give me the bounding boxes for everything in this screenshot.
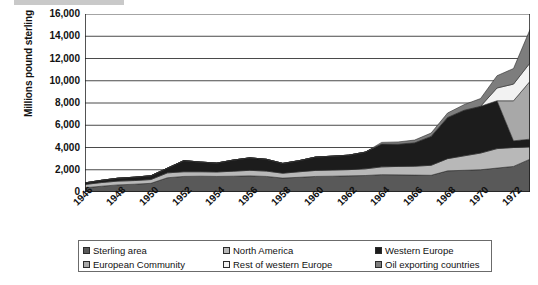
x-tick-label: 1960 xyxy=(302,184,326,208)
legend-swatch xyxy=(375,247,382,254)
stacked-area-chart: Millions pound sterling 02,0004,0006,000… xyxy=(0,0,538,285)
x-tick-label: 1956 xyxy=(236,184,260,208)
legend-label: Oil exporting countries xyxy=(385,259,480,270)
x-tick-label: 1966 xyxy=(401,184,425,208)
legend-label: Rest of western Europe xyxy=(233,259,332,270)
legend-item[interactable]: Rest of western Europe xyxy=(223,259,375,270)
legend: Sterling areaNorth AmericaWestern Europe… xyxy=(78,240,492,272)
legend-item[interactable]: European Community xyxy=(83,259,223,270)
legend-item[interactable]: North America xyxy=(223,245,375,256)
legend-item[interactable]: Oil exporting countries xyxy=(375,259,487,270)
x-tick-label: 1968 xyxy=(434,184,458,208)
legend-swatch xyxy=(83,247,90,254)
legend-label: Western Europe xyxy=(385,245,453,256)
legend-label: North America xyxy=(233,245,293,256)
x-tick-label: 1954 xyxy=(203,184,227,208)
legend-swatch xyxy=(375,261,382,268)
x-tick-label: 1972 xyxy=(500,184,524,208)
x-tick-label: 1950 xyxy=(137,184,161,208)
x-tick-label: 1946 xyxy=(71,184,95,208)
x-tick-label: 1958 xyxy=(269,184,293,208)
legend-swatch xyxy=(83,261,90,268)
x-tick-label: 1952 xyxy=(170,184,194,208)
legend-label: Sterling area xyxy=(93,245,147,256)
legend-grid: Sterling areaNorth AmericaWestern Europe… xyxy=(83,243,487,271)
x-tick-label: 1962 xyxy=(335,184,359,208)
x-tick-label: 1948 xyxy=(104,184,128,208)
legend-label: European Community xyxy=(93,259,185,270)
legend-swatch xyxy=(223,261,230,268)
x-tick-label: 1970 xyxy=(467,184,491,208)
legend-item[interactable]: Western Europe xyxy=(375,245,487,256)
legend-swatch xyxy=(223,247,230,254)
legend-item[interactable]: Sterling area xyxy=(83,245,223,256)
x-tick-label: 1964 xyxy=(368,184,392,208)
